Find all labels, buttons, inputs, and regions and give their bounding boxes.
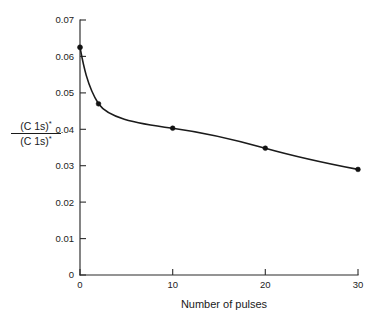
- chart-figure: 0 0.01 0.02 0.03 0.04 0.05 0.06 0.07 0 1…: [0, 0, 378, 320]
- y-axis-title-numerator: (C 1s)*: [8, 121, 64, 133]
- x-tick-label: 0: [77, 279, 82, 290]
- y-tick-label: 0.01: [56, 233, 75, 244]
- y-axis-denominator-superscript: *: [49, 134, 52, 143]
- line-chart-plot: 0 0.01 0.02 0.03 0.04 0.05 0.06 0.07 0 1…: [0, 0, 378, 320]
- y-tick-label: 0.03: [56, 160, 75, 171]
- y-axis-numerator-superscript: *: [49, 119, 52, 128]
- y-axis-numerator-text: (C 1s): [20, 120, 49, 132]
- y-tick-label: 0.02: [56, 197, 75, 208]
- y-tick-label: 0: [69, 269, 74, 280]
- y-tick-label: 0.07: [56, 14, 75, 25]
- data-point-marker: [170, 126, 175, 131]
- y-tick-label: 0.06: [56, 51, 75, 62]
- x-tick-label: 20: [260, 279, 271, 290]
- x-tick-label: 30: [353, 279, 364, 290]
- y-axis-denominator-text: (C 1s): [20, 135, 49, 147]
- x-axis-title: Number of pulses: [181, 298, 268, 310]
- x-tick-label: 10: [167, 279, 178, 290]
- data-point-marker: [356, 167, 361, 172]
- data-point-marker: [78, 45, 83, 50]
- data-point-marker: [96, 101, 101, 106]
- data-line-series-1: [80, 47, 358, 169]
- data-point-marker: [263, 146, 268, 151]
- y-axis-title: (C 1s)* (C 1s)*: [8, 121, 64, 148]
- y-tick-label: 0.05: [56, 87, 75, 98]
- y-axis-title-denominator: (C 1s)*: [8, 135, 64, 147]
